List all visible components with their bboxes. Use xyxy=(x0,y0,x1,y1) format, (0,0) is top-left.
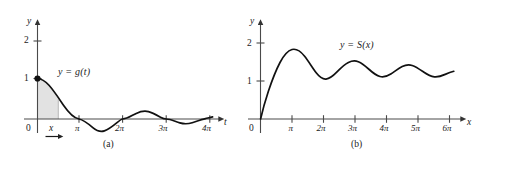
curve-g-of-t xyxy=(38,79,213,132)
panel-a-y-tick-label-1: 1 xyxy=(24,74,29,84)
panel-b-x-axis-label: x xyxy=(467,118,471,128)
panel-a-x-tick-label-3pi: 3π xyxy=(159,124,168,133)
panel-a-curve-label: y = g(t) xyxy=(58,67,90,77)
panel-a-x-tick-label-4pi: 4π xyxy=(202,124,211,133)
panel-a-x-axis-label: t xyxy=(224,118,227,128)
panel-b-plot xyxy=(246,0,502,171)
panel-b-y-tick-label-1: 1 xyxy=(247,77,252,87)
panel-b-x-tick-label-4pi: 4π xyxy=(380,124,389,133)
panel-a-caption: (a) xyxy=(103,140,114,150)
figure-root: y t 1 2 0 π 2π 3π 4π x y = g(t) (a) xyxy=(0,0,511,171)
panel-b-curve-label: y = S(x) xyxy=(340,40,374,50)
panel-b-y-axis-label: y xyxy=(250,17,254,27)
curve-S-of-x xyxy=(261,49,454,119)
panel-b-x-tick-label-6pi: 6π xyxy=(443,124,452,133)
panel-b-x-tick-label-pi: π xyxy=(289,124,294,133)
panel-a-origin-label: 0 xyxy=(26,124,31,134)
panel-b-x-tick-label-3pi: 3π xyxy=(348,124,357,133)
panel-b-origin-label: 0 xyxy=(249,124,254,134)
point-marker-0-1 xyxy=(34,75,40,81)
panel-a: y t 1 2 0 π 2π 3π 4π x y = g(t) (a) xyxy=(0,0,256,171)
panel-a-plot xyxy=(0,0,256,171)
panel-a-x-variable-label: x xyxy=(49,124,53,134)
panel-b-y-tick-label-2: 2 xyxy=(247,39,252,49)
panel-a-x-tick-label-2pi: 2π xyxy=(115,124,124,133)
panel-b-caption: (b) xyxy=(351,140,362,150)
panel-a-y-tick-label-2: 2 xyxy=(24,36,29,46)
panel-b-x-tick-label-5pi: 5π xyxy=(411,124,420,133)
panel-b-x-tick-label-2pi: 2π xyxy=(317,124,326,133)
panel-b: y x 1 2 0 π 2π 3π 4π 5π 6π y = S(x) (b) xyxy=(246,0,502,171)
panel-a-y-axis-label: y xyxy=(27,17,31,27)
panel-a-x-tick-label-pi: π xyxy=(75,124,80,133)
